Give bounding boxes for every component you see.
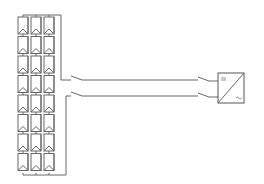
pv-module-icon [18, 154, 28, 171]
pv-module-icon [18, 17, 28, 37]
pv-module-icon [18, 95, 28, 115]
pv-module-icon [18, 56, 28, 76]
dc-switch-pole-2 [71, 92, 82, 96]
inverter-switch-pole-1 [198, 77, 209, 81]
pv-module-icon [31, 115, 41, 135]
pv-module-icon [31, 95, 41, 115]
pv-module-icon [44, 95, 54, 115]
pv-module-icon [31, 154, 41, 171]
pv-module-icon [31, 134, 41, 154]
pv-module-icon [44, 115, 54, 135]
pv-module-icon [44, 154, 54, 171]
pv-module-icon [18, 115, 28, 135]
pv-module-icon [44, 56, 54, 76]
pv-module-icon [31, 37, 41, 57]
pv-module-icon [18, 76, 28, 96]
pv-array [18, 17, 54, 171]
pv-module-icon [31, 56, 41, 76]
pv-system-diagram [0, 0, 264, 184]
pv-module-icon [44, 37, 54, 57]
inverter-icon [218, 73, 244, 103]
pv-module-icon [31, 76, 41, 96]
pv-module-icon [18, 134, 28, 154]
dc-switch-pole-1 [71, 76, 82, 80]
pv-module-icon [31, 17, 41, 37]
inverter-switch-pole-2 [198, 93, 209, 97]
pv-module-icon [44, 134, 54, 154]
pv-module-icon [44, 76, 54, 96]
pv-module-icon [18, 37, 28, 57]
positive-bus-wire [23, 15, 61, 80]
pv-module-icon [44, 17, 54, 37]
